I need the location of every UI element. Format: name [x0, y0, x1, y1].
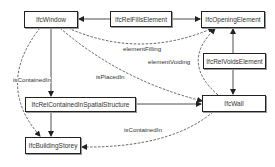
node-ifcrelcontainedinspatialstructure: IfcRelContainedInSpatialStructure	[25, 97, 136, 112]
label-element-voiding: elementVoiding	[148, 59, 190, 65]
node-ifcwindow: IfcWindow	[24, 11, 78, 28]
label-element-filling: elementFilling	[123, 46, 161, 52]
node-ifcrelfillselement: IfcRelFillsElement	[110, 11, 172, 27]
label-is-placed-in: isPlacedIn	[96, 74, 125, 80]
node-ifcrelvoidselement: IfcRelVoidsElement	[203, 53, 266, 69]
node-ifcbuildingstorey: IfcBuildingStorey	[25, 137, 81, 154]
edge-element-filling	[68, 28, 213, 44]
node-ifcopeningelement: IfcOpeningElement	[201, 11, 265, 28]
label-is-contained-in-window: isContainedIn	[13, 77, 51, 83]
node-ifcwall: IfcWall	[202, 95, 266, 112]
label-is-contained-in-wall: isContainedIn	[124, 127, 162, 133]
